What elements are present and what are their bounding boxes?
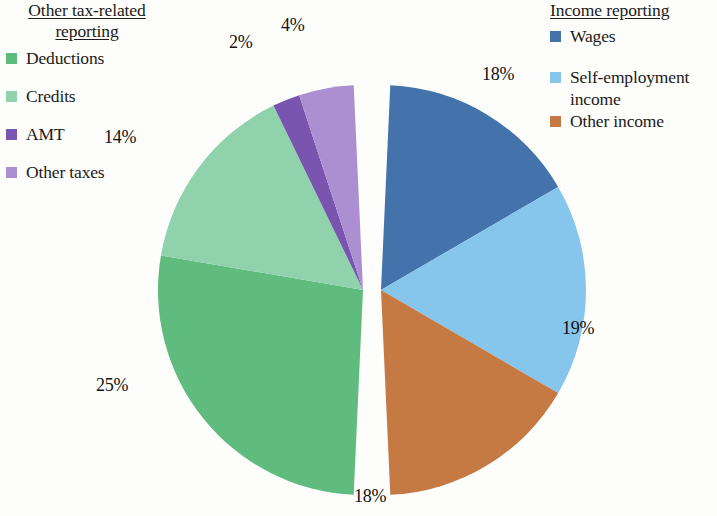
pct-label-other-taxes: 4% [281, 15, 305, 36]
legend-swatch-icon [550, 31, 561, 42]
legend-item-label: Other income [570, 110, 664, 132]
legend-right-title: Income reporting [540, 0, 717, 21]
pct-label-deductions: 25% [96, 375, 128, 396]
legend-other-tax-related-reporting: Other tax-related reporting DeductionsCr… [6, 0, 196, 199]
pie-chart-figure: 18%19%18%25%14%2%4% Other tax-related re… [0, 0, 717, 516]
pct-label-other-income: 18% [354, 486, 386, 507]
legend-item-other-taxes[interactable]: Other taxes [6, 161, 196, 183]
pie-slice-deductions[interactable] [158, 255, 363, 494]
legend-swatch-icon [6, 91, 17, 102]
legend-item-other-income[interactable]: Other income [550, 110, 717, 132]
legend-income-reporting: Income reporting WagesSelf-employment in… [540, 0, 717, 151]
legend-swatch-icon [6, 53, 17, 64]
pct-label-wages: 18% [482, 64, 514, 85]
legend-item-label: Other taxes [26, 161, 105, 183]
legend-swatch-icon [6, 167, 17, 178]
legend-left-items: DeductionsCreditsAMTOther taxes [6, 47, 196, 183]
legend-left-title: Other tax-related reporting [6, 0, 196, 42]
legend-swatch-icon [6, 129, 17, 140]
legend-item-self-employment-income[interactable]: Self-employment income [550, 66, 717, 110]
legend-item-label: Credits [26, 85, 76, 107]
legend-item-credits[interactable]: Credits [6, 85, 196, 107]
legend-item-label: AMT [26, 123, 64, 145]
pct-label-self-employment-income: 19% [562, 318, 594, 339]
pct-label-amt: 2% [229, 32, 253, 53]
legend-item-label: Wages [570, 25, 615, 47]
legend-swatch-icon [550, 116, 561, 127]
legend-right-items: WagesSelf-employment incomeOther income [540, 25, 717, 132]
legend-item-deductions[interactable]: Deductions [6, 47, 196, 69]
legend-item-label: Self-employment income [570, 66, 689, 110]
legend-swatch-icon [550, 72, 561, 83]
legend-item-label: Deductions [26, 47, 104, 69]
legend-item-amt[interactable]: AMT [6, 123, 196, 145]
legend-item-wages[interactable]: Wages [550, 25, 717, 47]
